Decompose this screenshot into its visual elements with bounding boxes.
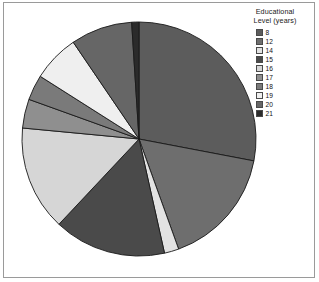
legend-item[interactable]: 19 <box>256 91 273 99</box>
legend-item-label: 14 <box>266 47 273 54</box>
legend-item[interactable]: 8 <box>256 28 269 36</box>
legend-item[interactable]: 17 <box>256 73 273 81</box>
legend-item-label: 15 <box>266 56 273 63</box>
legend-item[interactable]: 21 <box>256 109 273 117</box>
legend-items: 8121415161718192021 <box>238 28 312 118</box>
legend-item[interactable]: 15 <box>256 55 273 63</box>
legend-swatch-icon <box>256 110 263 117</box>
legend-item[interactable]: 16 <box>256 64 273 72</box>
legend-swatch-icon <box>256 74 263 81</box>
pie-slices-group <box>22 22 256 256</box>
legend-item-label: 12 <box>266 38 273 45</box>
legend-item[interactable]: 12 <box>256 37 273 45</box>
legend-swatch-icon <box>256 56 263 63</box>
legend-item[interactable]: 14 <box>256 46 273 54</box>
legend-item-label: 21 <box>266 110 273 117</box>
legend-item[interactable]: 18 <box>256 82 273 90</box>
pie-chart-figure: Educational Level (years) 81214151617181… <box>0 0 319 282</box>
legend-item-label: 16 <box>266 65 273 72</box>
legend-swatch-icon <box>256 101 263 108</box>
legend-item-label: 17 <box>266 74 273 81</box>
legend-item-label: 18 <box>266 83 273 90</box>
legend: Educational Level (years) 81214151617181… <box>238 8 312 118</box>
legend-swatch-icon <box>256 65 263 72</box>
legend-swatch-icon <box>256 83 263 90</box>
legend-title: Educational Level (years) <box>238 8 312 25</box>
legend-swatch-icon <box>256 38 263 45</box>
legend-swatch-icon <box>256 29 263 36</box>
legend-title-line-2: Level (years) <box>238 17 312 26</box>
legend-swatch-icon <box>256 47 263 54</box>
legend-item-label: 20 <box>266 101 273 108</box>
legend-item[interactable]: 20 <box>256 100 273 108</box>
legend-swatch-icon <box>256 92 263 99</box>
legend-item-label: 19 <box>266 92 273 99</box>
legend-item-label: 8 <box>266 29 270 36</box>
